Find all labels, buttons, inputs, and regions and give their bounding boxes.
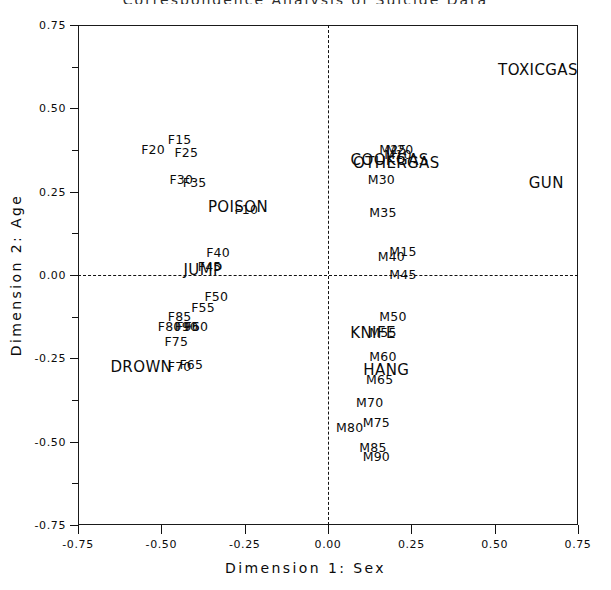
y-tick-major xyxy=(70,275,79,276)
y-tick-label: 0.75 xyxy=(2,19,66,32)
data-point-label: DROWN xyxy=(110,359,172,374)
x-tick-major xyxy=(328,525,329,534)
x-tick-label: 0.75 xyxy=(543,538,611,551)
chart-canvas: Correspondence Analysis of Suicide Data … xyxy=(0,0,611,590)
y-tick-label: -0.50 xyxy=(2,435,66,448)
data-point-label: TOXICGAS xyxy=(498,63,578,78)
y-tick-label: -0.75 xyxy=(2,519,66,532)
data-point-label: F35 xyxy=(183,177,207,190)
y-tick-minor xyxy=(72,67,78,68)
data-point-label: M45 xyxy=(389,269,416,282)
data-point-label: M50 xyxy=(379,310,406,323)
x-tick-label: 0.00 xyxy=(293,538,363,551)
x-tick-label: -0.50 xyxy=(126,538,196,551)
data-point-label: M35 xyxy=(369,207,396,220)
x-axis-title: Dimension 1: Sex xyxy=(0,560,611,576)
data-point-label: M30 xyxy=(368,174,395,187)
y-tick-minor xyxy=(72,233,78,234)
y-tick-minor xyxy=(72,400,78,401)
y-tick-major xyxy=(70,108,79,109)
x-tick-label: 0.25 xyxy=(376,538,446,551)
data-point-label: M55 xyxy=(369,327,396,340)
data-point-label: M90 xyxy=(363,450,390,463)
data-point-label: M80 xyxy=(336,422,363,435)
data-point-label: F75 xyxy=(164,335,188,348)
data-point-label: GUN xyxy=(529,176,564,191)
data-point-label: M60 xyxy=(369,350,396,363)
data-point-label: F45 xyxy=(198,260,222,273)
data-point-label: M65 xyxy=(366,374,393,387)
data-point-label: M40 xyxy=(378,250,405,263)
y-tick-label: 0.50 xyxy=(2,102,66,115)
x-tick-major xyxy=(578,525,579,534)
x-tick-major xyxy=(161,525,162,534)
horizontal-zero-reference-line xyxy=(78,275,578,276)
data-point-label: F10 xyxy=(234,204,258,217)
data-point-label: F20 xyxy=(141,144,165,157)
data-point-label: F95 xyxy=(176,320,200,333)
data-point-label: M75 xyxy=(363,417,390,430)
y-tick-major xyxy=(70,192,79,193)
data-point-label: F25 xyxy=(174,147,198,160)
x-tick-major xyxy=(411,525,412,534)
data-point-label: F55 xyxy=(191,302,215,315)
chart-title: Correspondence Analysis of Suicide Data xyxy=(0,0,611,4)
x-tick-label: -0.25 xyxy=(210,538,280,551)
y-tick-minor xyxy=(72,483,78,484)
y-tick-major xyxy=(70,442,79,443)
y-tick-major xyxy=(70,25,79,26)
y-tick-major xyxy=(70,358,79,359)
y-tick-minor xyxy=(72,317,78,318)
x-tick-major xyxy=(495,525,496,534)
data-point-label: M70 xyxy=(356,397,383,410)
data-point-label: M25 xyxy=(379,144,406,157)
data-point-label: F70 xyxy=(168,360,192,373)
y-axis-title: Dimension 2: Age xyxy=(8,194,24,356)
x-tick-major xyxy=(78,525,79,534)
y-tick-minor xyxy=(72,150,78,151)
x-tick-label: 0.50 xyxy=(460,538,530,551)
x-tick-label: -0.75 xyxy=(43,538,113,551)
x-tick-major xyxy=(245,525,246,534)
